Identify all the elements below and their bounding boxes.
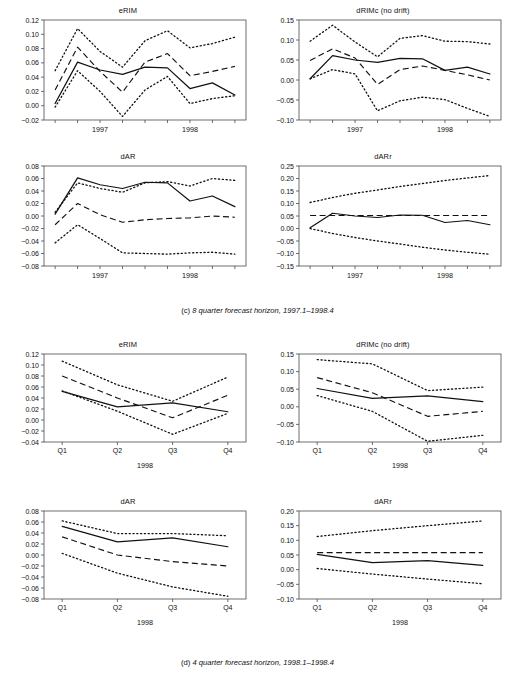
y-tick-label: 0.04 bbox=[25, 74, 39, 81]
x-tick-label: Q2 bbox=[368, 447, 377, 455]
y-tick-label: 0.15 bbox=[280, 188, 294, 195]
plot-frame bbox=[44, 354, 246, 442]
plot-frame bbox=[299, 511, 501, 599]
chart-canvas: −0.08−0.06−0.04−0.020.000.020.040.060.08… bbox=[4, 162, 252, 292]
panel-grid-c: eRIM −0.020.000.020.040.060.080.100.1219… bbox=[0, 0, 515, 300]
chart-canvas: −0.10−0.050.000.050.100.150.20Q1Q2Q3Q419… bbox=[259, 507, 507, 637]
x-tick-label: Q3 bbox=[423, 604, 432, 612]
y-tick-label: 0.00 bbox=[280, 566, 294, 573]
x-axis-label: 1998 bbox=[392, 618, 408, 627]
y-tick-label: 0.02 bbox=[25, 88, 39, 95]
panel-title: dAR bbox=[4, 497, 252, 506]
series-line-actual bbox=[55, 62, 235, 103]
plot-frame bbox=[299, 20, 501, 120]
y-tick-label: −0.10 bbox=[276, 117, 294, 124]
chart-canvas: −0.10−0.050.000.050.100.15Q1Q2Q3Q41998 bbox=[259, 350, 507, 480]
x-year-label: 1997 bbox=[92, 125, 108, 134]
x-tick-label: Q4 bbox=[223, 447, 232, 455]
y-tick-label: 0.00 bbox=[25, 213, 39, 220]
x-tick-label: Q1 bbox=[58, 604, 67, 612]
y-tick-label: 0.06 bbox=[25, 175, 39, 182]
y-tick-label: −0.05 bbox=[276, 421, 294, 428]
y-tick-label: 0.20 bbox=[280, 508, 294, 515]
chart-panel-dar-8q: dAR −0.08−0.06−0.04−0.020.000.020.040.06… bbox=[4, 152, 252, 292]
y-tick-label: −0.06 bbox=[21, 250, 39, 257]
chart-svg-c-drimc: −0.10−0.050.000.050.100.1519971998 bbox=[259, 16, 507, 142]
y-tick-label: −0.05 bbox=[276, 581, 294, 588]
y-tick-label: −0.02 bbox=[21, 117, 39, 124]
y-tick-label: −0.15 bbox=[276, 263, 294, 270]
y-tick-label: 0.08 bbox=[25, 163, 39, 170]
y-tick-label: 0.04 bbox=[25, 395, 39, 402]
y-tick-label: −0.10 bbox=[276, 596, 294, 603]
x-tick-label: Q1 bbox=[313, 604, 322, 612]
x-tick-label: Q1 bbox=[58, 447, 67, 455]
x-tick-label: Q2 bbox=[113, 447, 122, 455]
x-tick-label: Q3 bbox=[168, 604, 177, 612]
series-line-forecast bbox=[55, 47, 235, 92]
x-year-label: 1998 bbox=[182, 125, 198, 134]
series-line-lower-band bbox=[62, 391, 228, 434]
chart-svg-c-dar: −0.08−0.06−0.04−0.020.000.020.040.060.08… bbox=[4, 162, 252, 288]
series-line-forecast bbox=[310, 49, 490, 85]
y-tick-label: 0.05 bbox=[280, 552, 294, 559]
x-tick-label: Q4 bbox=[478, 604, 487, 612]
x-year-label: 1998 bbox=[437, 125, 453, 134]
x-year-label: 1997 bbox=[92, 271, 108, 280]
series-line-actual bbox=[62, 526, 228, 546]
chart-canvas: −0.15−0.10−0.050.000.050.100.150.200.251… bbox=[259, 162, 507, 292]
chart-panel-drimc-8q: dRIMc (no drift) −0.10−0.050.000.050.100… bbox=[259, 6, 507, 146]
y-tick-label: 0.06 bbox=[25, 384, 39, 391]
y-tick-label: 0.10 bbox=[25, 31, 39, 38]
y-tick-label: 0.08 bbox=[25, 508, 39, 515]
plot-frame bbox=[299, 354, 501, 442]
y-tick-label: −0.05 bbox=[276, 97, 294, 104]
y-tick-label: 0.02 bbox=[25, 406, 39, 413]
y-tick-label: 0.15 bbox=[280, 522, 294, 529]
series-line-upper-band bbox=[62, 361, 228, 401]
y-tick-label: −0.02 bbox=[21, 563, 39, 570]
series-line-upper-band bbox=[317, 521, 483, 537]
chart-svg-c-erim: −0.020.000.020.040.060.080.100.121997199… bbox=[4, 16, 252, 142]
x-year-label: 1997 bbox=[347, 125, 363, 134]
y-tick-label: 0.00 bbox=[280, 77, 294, 84]
y-tick-label: 0.15 bbox=[280, 351, 294, 358]
series-line-forecast bbox=[62, 376, 228, 418]
x-axis-label: 1998 bbox=[392, 461, 408, 470]
y-tick-label: 0.25 bbox=[280, 163, 294, 170]
series-line-actual bbox=[317, 554, 483, 565]
y-tick-label: 0.02 bbox=[25, 200, 39, 207]
y-tick-label: 0.04 bbox=[25, 530, 39, 537]
chart-panel-darr-8q: dARr −0.15−0.10−0.050.000.050.100.150.20… bbox=[259, 152, 507, 292]
y-tick-label: 0.06 bbox=[25, 519, 39, 526]
series-line-upper-band bbox=[55, 29, 235, 71]
y-tick-label: −0.08 bbox=[21, 596, 39, 603]
series-line-lower-band bbox=[55, 225, 235, 254]
y-tick-label: 0.12 bbox=[25, 351, 39, 358]
x-tick-label: Q3 bbox=[423, 447, 432, 455]
panel-title: dARr bbox=[259, 152, 507, 161]
chart-svg-c-darr: −0.15−0.10−0.050.000.050.100.150.200.251… bbox=[259, 162, 507, 288]
y-tick-label: 0.00 bbox=[25, 552, 39, 559]
series-line-lower-band bbox=[317, 568, 483, 583]
chart-svg-d-drimc: −0.10−0.050.000.050.100.15Q1Q2Q3Q41998 bbox=[259, 350, 507, 476]
series-line-lower-band bbox=[62, 553, 228, 596]
y-tick-label: 0.10 bbox=[280, 537, 294, 544]
x-tick-label: Q3 bbox=[168, 447, 177, 455]
y-tick-label: 0.02 bbox=[25, 541, 39, 548]
series-line-forecast bbox=[55, 204, 235, 225]
caption-text: 8 quarter forecast horizon, 1997.1–1998.… bbox=[192, 306, 333, 315]
y-tick-label: 0.05 bbox=[280, 213, 294, 220]
chart-panel-erim-8q: eRIM −0.020.000.020.040.060.080.100.1219… bbox=[4, 6, 252, 146]
series-line-lower-band bbox=[310, 229, 490, 255]
chart-panel-dar-4q: dAR −0.08−0.06−0.04−0.020.000.020.040.06… bbox=[4, 497, 252, 647]
chart-canvas: −0.10−0.050.000.050.100.1519971998 bbox=[259, 16, 507, 146]
caption-d: (d) 4 quarter forecast horizon, 1998.1–1… bbox=[0, 658, 515, 667]
series-line-lower-band bbox=[55, 71, 235, 117]
y-tick-label: 0.10 bbox=[280, 368, 294, 375]
y-tick-label: −0.05 bbox=[276, 238, 294, 245]
y-tick-label: −0.02 bbox=[21, 225, 39, 232]
y-tick-label: 0.05 bbox=[280, 57, 294, 64]
y-tick-label: −0.06 bbox=[21, 585, 39, 592]
panel-title: eRIM bbox=[4, 6, 252, 15]
